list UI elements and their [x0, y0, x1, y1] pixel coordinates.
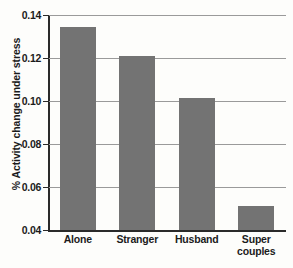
- bar-stranger: [119, 56, 155, 230]
- bar-alone: [60, 27, 96, 230]
- y-tick-label: 0.08: [0, 138, 41, 150]
- y-tick-label: 0.04: [0, 224, 41, 236]
- y-tick-label: 0.14: [0, 9, 41, 21]
- x-axis-label-husband: Husband: [167, 234, 227, 246]
- x-axis-label-stranger: Stranger: [108, 234, 168, 246]
- x-axis-label-alone: Alone: [48, 234, 108, 246]
- y-tick-label: 0.10: [0, 95, 41, 107]
- plot-area: [48, 15, 286, 230]
- x-label-line: Alone: [48, 234, 108, 246]
- x-label-line: Husband: [167, 234, 227, 246]
- y-tick-label: 0.12: [0, 52, 41, 64]
- y-tick-mark: [43, 230, 49, 231]
- y-tick-label: 0.06: [0, 181, 41, 193]
- y-tick-mark: [43, 101, 49, 102]
- y-tick-mark: [43, 58, 49, 59]
- bar-husband: [179, 98, 215, 230]
- bar-chart: % Activity change under stress 0.040.060…: [0, 0, 293, 268]
- bar-super-couples: [238, 206, 274, 230]
- x-label-line: Stranger: [108, 234, 168, 246]
- y-tick-mark: [43, 187, 49, 188]
- x-label-line: Super: [227, 234, 287, 246]
- y-tick-mark: [43, 15, 49, 16]
- x-axis-label-super-couples: Supercouples: [227, 234, 287, 257]
- x-label-line: couples: [227, 246, 287, 258]
- gridline-0.04: [48, 230, 286, 232]
- y-tick-mark: [43, 144, 49, 145]
- gridline-0.14: [48, 15, 286, 16]
